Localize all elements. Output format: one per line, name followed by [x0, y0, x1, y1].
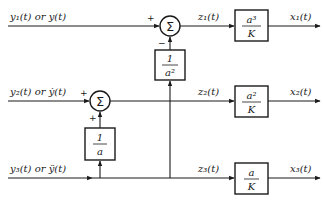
output-label-x1: x₁(t): [290, 11, 312, 22]
feed-block-inv-a2: 1 a²: [155, 37, 185, 178]
sum1-bottom-sign: −: [158, 38, 166, 48]
output-label-x2: x₂(t): [290, 86, 312, 97]
inv-a2-numerator: 1: [167, 53, 173, 64]
g2-numerator: a²: [247, 90, 257, 101]
sum1-junction: Σ: [160, 16, 180, 36]
g1-denominator: K: [247, 28, 256, 39]
row-2: y₂(t) or ẏ(t) + Σ + z₂(t) a² K x₂(t): [8, 86, 320, 123]
inv-a-numerator: 1: [97, 132, 103, 143]
sigma-symbol: Σ: [96, 94, 104, 109]
row-1: y₁(t) or y(t) + Σ − z₁(t) a³ K x₁(t): [8, 10, 320, 48]
sigma-symbol: Σ: [166, 19, 174, 34]
g2-denominator: K: [247, 104, 256, 115]
inv-a2-denominator: a²: [165, 67, 175, 78]
sum2-junction: Σ: [90, 91, 110, 111]
g3-denominator: K: [247, 181, 256, 192]
g3-numerator: a: [249, 167, 255, 178]
sum1-left-sign: +: [147, 13, 155, 23]
block-diagram: y₁(t) or y(t) + Σ − z₁(t) a³ K x₁(t) 1 a…: [0, 0, 323, 202]
sum2-left-sign: +: [80, 88, 88, 98]
input-label-y2: y₂(t) or ẏ(t): [9, 86, 66, 97]
row-3: y₃(t) or ÿ(t) z₃(t) a K x₃(t): [8, 163, 320, 194]
output-label-x3: x₃(t): [290, 163, 312, 174]
input-label-y3: y₃(t) or ÿ(t): [9, 163, 66, 174]
gain-block-g3: a K: [235, 163, 268, 194]
signal-label-z2: z₂(t): [197, 86, 219, 97]
sum2-bottom-sign: +: [89, 113, 97, 123]
g1-numerator: a³: [247, 14, 257, 25]
gain-block-g2: a² K: [235, 86, 268, 117]
signal-label-z3: z₃(t): [197, 163, 219, 174]
gain-block-g1: a³ K: [235, 10, 268, 41]
input-label-y1: y₁(t) or y(t): [9, 11, 66, 22]
inv-a-denominator: a: [97, 146, 103, 157]
signal-label-z1: z₁(t): [197, 11, 219, 22]
